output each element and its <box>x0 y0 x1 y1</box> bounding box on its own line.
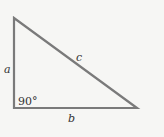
triangle-diagram <box>0 0 164 137</box>
right-angle-label: 90° <box>18 96 38 107</box>
side-a-label: a <box>4 64 11 75</box>
side-b-label: b <box>68 113 75 124</box>
side-c-label: c <box>76 52 82 63</box>
